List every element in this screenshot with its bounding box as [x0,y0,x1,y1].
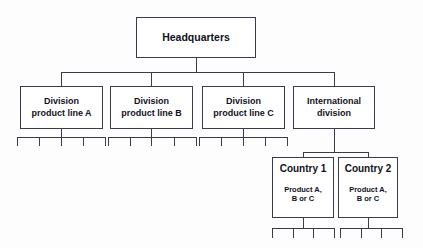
leaf-node-country-1-4 [334,228,335,238]
leaf-node-division-a-4 [83,137,84,146]
leafbar-division-b [108,137,196,138]
leaf-node-division-a-1 [17,137,18,146]
connector-stem-country-1-leaves [303,218,304,228]
leaf-node-division-c-2 [221,137,222,146]
leaf-node-country-2-4 [402,228,403,238]
leaf-node-country-1-2 [293,228,294,238]
leaf-node-division-a-3 [61,137,62,146]
node-country-1[interactable]: Country 1 Product A, B or C [272,157,334,218]
node-headquarters[interactable]: Headquarters [136,17,256,58]
connector-stem-division-b-leaves [151,129,152,137]
leafbar-country-1 [272,228,334,229]
leaf-node-division-c-5 [287,137,288,146]
leaf-node-division-b-2 [130,137,131,146]
node-country-2-sub-line1: Product A, [349,185,387,195]
node-country-1-sub-line2: B or C [292,194,315,204]
node-division-product-line-b[interactable]: Division product line B [110,86,193,129]
leaf-node-division-a-2 [39,137,40,146]
connector-stem-country-2-leaves [368,218,369,228]
node-division-a-line1: Division [44,96,79,107]
leaf-node-country-2-2 [361,228,362,238]
leaf-node-country-1-3 [313,228,314,238]
node-division-c-line2: product line C [213,108,274,119]
node-division-c-line1: Division [226,96,261,107]
leaf-node-division-c-1 [199,137,200,146]
org-chart-canvas: Headquarters Division product line A Div… [0,0,423,248]
node-headquarters-label: Headquarters [162,31,230,44]
connector-root-stem [196,58,197,72]
node-division-b-line1: Division [134,96,169,107]
node-international-division[interactable]: International division [293,86,375,129]
node-international-line1: International [307,96,361,107]
connector-drop-international-division [334,72,335,86]
node-country-2-sub-line2: B or C [357,194,380,204]
node-country-1-title: Country 1 [280,163,327,176]
connector-stem-international-countries [334,129,335,152]
node-country-2-title: Country 2 [345,163,392,176]
connector-drop-division-b [151,72,152,86]
connector-drop-division-a [61,72,62,86]
connector-drop-division-c [243,72,244,86]
node-country-1-sub-line1: Product A, [284,185,322,195]
node-division-product-line-a[interactable]: Division product line A [20,86,103,129]
connector-level2-bar [61,72,335,73]
leaf-node-division-c-4 [265,137,266,146]
leaf-node-division-b-4 [174,137,175,146]
node-division-b-line2: product line B [121,108,182,119]
leaf-node-country-2-1 [340,228,341,238]
leaf-node-division-b-5 [196,137,197,146]
node-international-line2: division [317,108,351,119]
leaf-node-division-c-3 [243,137,244,146]
leaf-node-division-b-3 [151,137,152,146]
node-division-a-line2: product line A [31,108,91,119]
connector-stem-division-a-leaves [61,129,62,137]
connector-stem-division-c-leaves [243,129,244,137]
leafbar-country-2 [340,228,402,229]
node-country-2[interactable]: Country 2 Product A, B or C [338,157,398,218]
node-division-product-line-c[interactable]: Division product line C [202,86,285,129]
leaf-node-country-2-3 [381,228,382,238]
leaf-node-country-1-1 [272,228,273,238]
leaf-node-division-a-5 [105,137,106,146]
leaf-node-division-b-1 [108,137,109,146]
connector-countries-bar [303,152,368,153]
